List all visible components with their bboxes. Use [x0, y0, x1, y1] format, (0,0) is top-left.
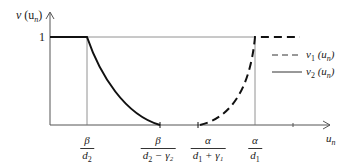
- x-axis-label: un: [326, 133, 336, 147]
- x-label-sub: n: [332, 138, 336, 147]
- x-tick-alpha-over-d1-plus-gamma1: α d1 + γ₁: [191, 135, 226, 164]
- y-label-main: v: [16, 8, 21, 22]
- legend-item-v2: v2 (un): [306, 65, 334, 80]
- x-tick-beta-over-d2: β d2: [80, 135, 94, 164]
- series-v1-dashed-line: [200, 37, 300, 125]
- y-label-arg: (u: [24, 8, 34, 22]
- series-v2-solid-line: [50, 37, 160, 125]
- tick-numerator: α: [250, 135, 260, 148]
- tick-denominator: d2 − γ₂: [141, 148, 176, 165]
- y-axis-label: v (un): [16, 9, 42, 24]
- tick-numerator: β: [153, 135, 162, 148]
- tick-denominator: d2: [80, 148, 94, 165]
- y-tick-one: 1: [39, 30, 45, 45]
- tick-denominator: d1 + γ₁: [191, 148, 226, 165]
- x-tick-alpha-over-d1: α d1: [248, 135, 262, 164]
- legend-item-v1: v1 (un): [306, 48, 334, 63]
- tick-numerator: β: [82, 135, 91, 148]
- x-tick-beta-over-d2-minus-gamma2: β d2 − γ₂: [141, 135, 176, 164]
- tick-denominator: d1: [248, 148, 262, 165]
- plot-area: [0, 0, 352, 168]
- tick-numerator: α: [203, 135, 213, 148]
- y-label-close: ): [38, 8, 42, 22]
